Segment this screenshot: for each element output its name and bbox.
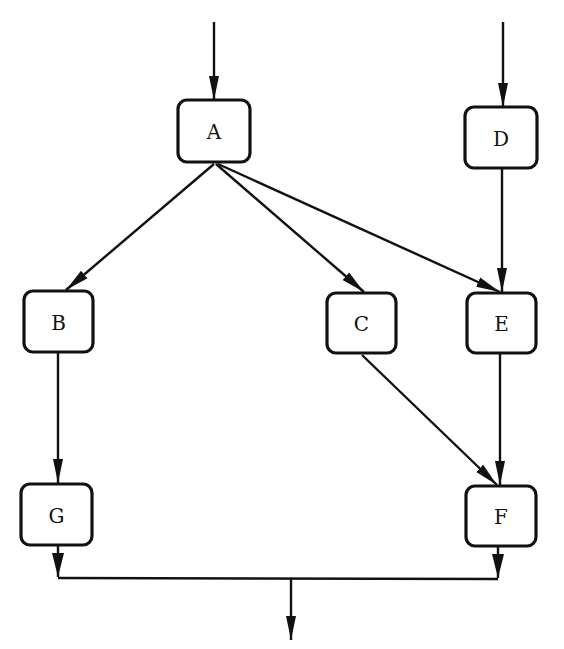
node-label: G — [49, 504, 65, 528]
node-c: C — [327, 293, 396, 353]
nodes: ADBCEGF — [21, 100, 537, 546]
node-label: D — [493, 127, 509, 151]
node-d: D — [465, 107, 537, 168]
node-f: F — [466, 486, 536, 546]
edge-a-to-c — [216, 164, 364, 292]
edges — [52, 22, 504, 640]
node-label: B — [51, 311, 66, 335]
arrowhead-f-bus — [492, 554, 504, 578]
edge-a-to-e — [218, 164, 500, 292]
node-label: F — [494, 505, 508, 529]
node-label: C — [354, 312, 369, 336]
flow-diagram: ADBCEGF — [0, 0, 564, 649]
node-e: E — [467, 293, 536, 353]
node-b: B — [24, 291, 93, 352]
node-label: A — [206, 120, 222, 144]
node-g: G — [21, 484, 92, 545]
merge-bus-line — [58, 578, 498, 579]
node-a: A — [178, 100, 250, 162]
arrowhead-g-bus — [52, 553, 64, 577]
node-label: E — [494, 312, 509, 336]
edge-a-to-b — [66, 164, 214, 290]
edge-c-to-f — [362, 355, 497, 485]
